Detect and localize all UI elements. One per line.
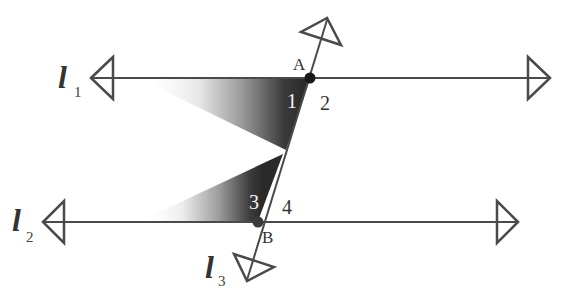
line-l3[interactable] <box>234 18 341 281</box>
svg-text:2: 2 <box>26 229 34 245</box>
line-l1-label: l 1 <box>58 59 82 100</box>
angle-1-label: 1 <box>287 90 297 112</box>
svg-text:l: l <box>12 202 21 238</box>
point-a[interactable] <box>305 73 316 84</box>
parallel-lines-diagram: A B 1 2 3 4 l 1 l 2 l 3 <box>0 0 566 294</box>
svg-text:l: l <box>58 59 67 95</box>
svg-text:3: 3 <box>218 273 226 289</box>
point-a-label: A <box>293 55 306 74</box>
angle-1-shading <box>140 79 310 150</box>
angle-3-shading <box>140 154 283 221</box>
point-b-label: B <box>262 228 273 247</box>
point-b[interactable] <box>253 217 264 228</box>
line-l3-label: l 3 <box>205 249 226 289</box>
line-l2-label: l 2 <box>12 202 34 245</box>
angle-4-label: 4 <box>282 196 292 218</box>
svg-text:1: 1 <box>74 84 82 100</box>
angle-3-label: 3 <box>249 191 259 213</box>
diagram-canvas: A B 1 2 3 4 l 1 l 2 l 3 <box>0 0 566 294</box>
angle-2-label: 2 <box>320 92 330 114</box>
svg-text:l: l <box>205 249 214 285</box>
line-l2[interactable] <box>43 201 518 243</box>
